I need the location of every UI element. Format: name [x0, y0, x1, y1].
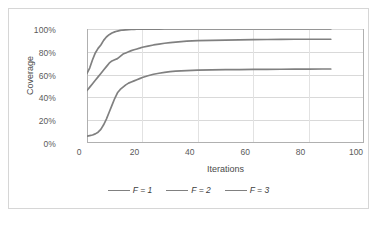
x-tick-label: 80	[281, 148, 321, 157]
y-tick-label: 100%	[0, 26, 56, 35]
series-line-f=2	[87, 39, 331, 90]
legend-item[interactable]: F = 2	[166, 186, 210, 195]
x-tick-label: 100	[336, 148, 376, 157]
series-line-f=1	[87, 29, 331, 73]
x-tick-label: 0	[59, 148, 99, 157]
gridlines	[87, 29, 364, 143]
x-tick-label: 40	[170, 148, 210, 157]
legend-item[interactable]: F = 3	[225, 186, 269, 195]
series-line-f=3	[87, 69, 331, 136]
legend-item[interactable]: F = 1	[108, 186, 152, 195]
axis-lines	[87, 29, 364, 143]
y-tick-label: 20%	[0, 117, 56, 126]
plot-area	[87, 29, 364, 143]
legend-line-icon	[108, 190, 130, 191]
y-tick-label: 0%	[0, 140, 56, 149]
coverage-vs-iterations-chart: 100% 80% 60% 40% 20% 0% 0 20 40 60 80 10…	[0, 0, 385, 226]
legend: F = 1 F = 2 F = 3	[8, 186, 369, 195]
legend-item-label: F = 3	[250, 186, 269, 195]
legend-item-label: F = 1	[133, 186, 152, 195]
plot-svg	[87, 29, 364, 143]
legend-line-icon	[166, 190, 188, 191]
x-tick-label: 20	[114, 148, 154, 157]
y-axis-title: Coverage	[26, 36, 35, 116]
chart-frame: 100% 80% 60% 40% 20% 0% 0 20 40 60 80 10…	[8, 8, 369, 209]
x-axis-title: Iterations	[87, 165, 364, 174]
legend-line-icon	[225, 190, 247, 191]
x-tick-label: 60	[225, 148, 265, 157]
legend-item-label: F = 2	[191, 186, 210, 195]
